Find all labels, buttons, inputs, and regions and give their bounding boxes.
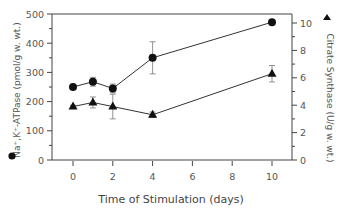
left-tick-label: 200 xyxy=(26,96,44,107)
right-tick-label: 2 xyxy=(300,127,306,138)
circle-data-point xyxy=(149,54,157,62)
right-tick-label: 8 xyxy=(300,45,306,56)
left-axis-title: Na⁺,K⁺-ATPase (pmol/g w. wt.) xyxy=(12,22,22,157)
x-tick-label: 4 xyxy=(150,171,156,182)
right-tick-label: 10 xyxy=(300,18,312,29)
series-line xyxy=(73,22,272,88)
x-tick-label: 8 xyxy=(229,171,235,182)
x-tick-label: 10 xyxy=(266,171,278,182)
triangle-data-point xyxy=(268,69,277,77)
series-layer xyxy=(69,18,277,119)
circle-data-point xyxy=(89,78,97,86)
x-tick-label: 2 xyxy=(110,171,116,182)
circle-data-point xyxy=(69,83,77,91)
plot-frame xyxy=(52,14,292,160)
right-tick-label: 4 xyxy=(300,100,306,111)
left-tick-label: 100 xyxy=(26,125,44,136)
x-tick-label: 6 xyxy=(189,171,195,182)
left-tick-label: 300 xyxy=(26,67,44,78)
x-axis-title: Time of Stimulation (days) xyxy=(97,193,243,206)
x-axis: 0246810 xyxy=(70,161,278,182)
x-tick-label: 0 xyxy=(70,171,76,182)
left-tick-label: 0 xyxy=(38,155,44,166)
right-axis-triangle-marker-icon xyxy=(323,14,331,20)
circle-data-point xyxy=(268,18,276,26)
left-y-axis: 0100200300400500 xyxy=(26,9,52,166)
left-tick-label: 500 xyxy=(26,9,44,20)
triangle-data-point xyxy=(88,97,97,105)
right-axis-title: Citrate Synthase (U/g w. wt.) xyxy=(325,33,335,162)
dual-axis-line-chart: 0100200300400500 0246810 0246810 Time of… xyxy=(0,0,338,212)
left-tick-label: 400 xyxy=(26,38,44,49)
series-line xyxy=(73,74,272,115)
right-tick-label: 6 xyxy=(300,72,306,83)
right-y-axis: 0246810 xyxy=(292,18,312,166)
left-axis-circle-marker-icon xyxy=(8,152,15,159)
circle-data-point xyxy=(109,84,117,92)
right-tick-label: 0 xyxy=(300,155,306,166)
